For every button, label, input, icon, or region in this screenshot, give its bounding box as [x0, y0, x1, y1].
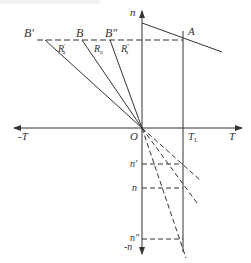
label-Ra-double-prime: R″a — [120, 43, 130, 55]
label-n: n — [132, 182, 137, 193]
label-B-prime: B′ — [24, 26, 34, 40]
label-B: B — [76, 26, 84, 40]
label-minus-n: -n — [124, 241, 132, 252]
label-minus-T: -T — [18, 130, 29, 142]
label-T-L: TL — [188, 130, 198, 143]
label-n-axis: n — [130, 6, 136, 18]
label-B-double-prime: B″ — [105, 26, 118, 40]
label-Ra: Ra — [93, 43, 103, 55]
label-n-prime: n′ — [130, 158, 138, 169]
label-A: A — [187, 25, 195, 37]
label-T: T — [229, 130, 236, 142]
label-origin: O — [130, 130, 138, 142]
dashed-ray-n-double-prime — [142, 128, 186, 258]
ray-b — [82, 40, 142, 128]
natural-characteristic-line — [142, 23, 222, 52]
motor-characteristic-diagram: n A B′ B B″ R′a Ra R″a -T O TL T n′ n n″… — [0, 0, 251, 263]
label-Ra-prime: R′a — [57, 43, 66, 55]
